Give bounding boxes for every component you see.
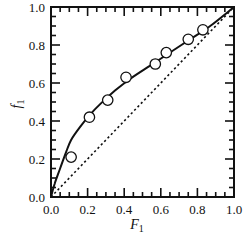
y-tick-label: 1.0 xyxy=(29,0,45,15)
x-tick-label: 0.2 xyxy=(79,202,95,217)
x-tick-label: 0.6 xyxy=(153,202,170,217)
open-circle-marker xyxy=(198,25,208,35)
x-tick-label: 0.8 xyxy=(189,202,205,217)
open-circle-marker xyxy=(66,152,76,162)
open-circle-marker xyxy=(183,34,193,44)
ideal-diagonal-line xyxy=(51,7,234,197)
open-circle-marker xyxy=(103,95,113,105)
x-tick-label: 0.4 xyxy=(116,202,133,217)
x-tick-label: 1.0 xyxy=(226,202,242,217)
open-circle-marker xyxy=(150,59,160,69)
y-tick-label: 0.6 xyxy=(29,76,46,91)
y-tick-label: 0.0 xyxy=(29,190,45,205)
y-tick-label: 0.2 xyxy=(29,152,45,167)
diagonal-line xyxy=(51,7,234,197)
open-circle-marker xyxy=(121,72,131,82)
y-tick-label: 0.8 xyxy=(29,38,45,53)
x-tick-labels: 0.00.20.40.60.81.0 xyxy=(43,202,242,217)
data-points xyxy=(66,25,208,163)
x-axis-label: F1 xyxy=(129,217,144,234)
y-axis-label: f1 xyxy=(9,100,26,109)
y-tick-label: 0.4 xyxy=(29,114,46,129)
y-tick-labels: 0.00.20.40.60.81.0 xyxy=(29,0,46,205)
chart: 0.00.20.40.60.81.0 0.00.20.40.60.81.0 F1… xyxy=(0,0,250,237)
x-tick-label: 0.0 xyxy=(43,202,59,217)
open-circle-marker xyxy=(161,47,171,57)
open-circle-marker xyxy=(84,112,94,122)
